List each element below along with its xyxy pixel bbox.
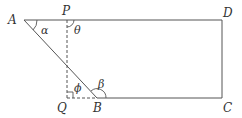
label-b: B [92, 101, 102, 115]
segment-ab [24, 20, 97, 98]
label-theta: θ [74, 24, 81, 37]
label-q: Q [57, 101, 67, 115]
label-p: P [61, 4, 71, 18]
right-angle-mark [67, 92, 73, 98]
label-d: D [222, 6, 233, 20]
geometry-diagram: A P D Q B C α θ ϕ β [0, 0, 242, 118]
label-c: C [223, 101, 232, 115]
label-phi: ϕ [74, 82, 82, 95]
label-alpha: α [41, 24, 49, 37]
angle-arc-theta [67, 20, 74, 27]
label-a: A [7, 13, 17, 27]
label-beta: β [97, 78, 104, 91]
angle-arc-alpha [33, 20, 37, 30]
